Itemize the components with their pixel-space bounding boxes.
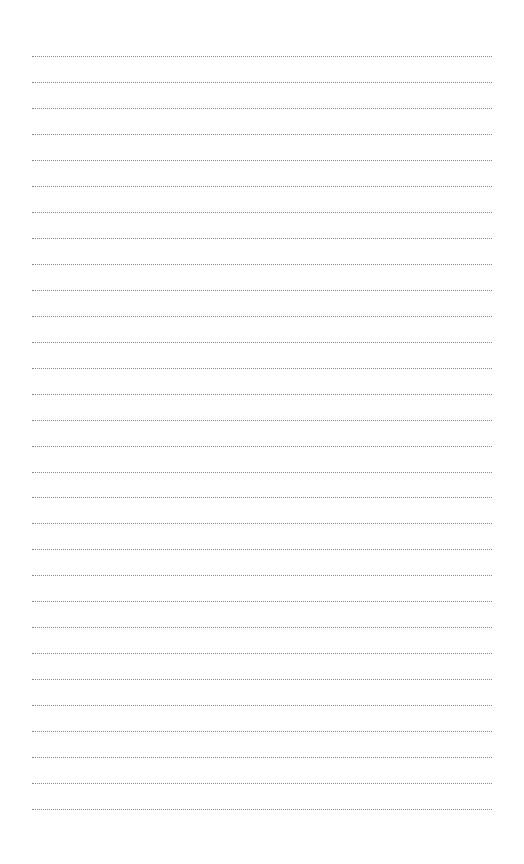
- lined-page: [0, 0, 524, 864]
- ruled-line: [32, 82, 492, 83]
- ruled-line: [32, 575, 492, 576]
- ruled-line: [32, 705, 492, 706]
- ruled-line: [32, 601, 492, 602]
- ruled-line: [32, 56, 492, 57]
- ruled-line: [32, 523, 492, 524]
- ruled-line: [32, 627, 492, 628]
- ruled-line: [32, 368, 492, 369]
- ruled-line: [32, 679, 492, 680]
- ruled-line: [32, 186, 492, 187]
- ruled-line: [32, 446, 492, 447]
- ruled-line: [32, 472, 492, 473]
- ruled-line: [32, 108, 492, 109]
- ruled-line: [32, 394, 492, 395]
- ruled-line: [32, 342, 492, 343]
- ruled-line: [32, 264, 492, 265]
- ruled-line: [32, 549, 492, 550]
- ruled-line: [32, 290, 492, 291]
- ruled-line: [32, 160, 492, 161]
- ruled-line: [32, 731, 492, 732]
- ruled-line: [32, 316, 492, 317]
- ruled-line: [32, 497, 492, 498]
- ruled-line: [32, 653, 492, 654]
- ruled-line: [32, 783, 492, 784]
- ruled-line: [32, 212, 492, 213]
- ruled-line: [32, 809, 492, 810]
- ruled-line: [32, 134, 492, 135]
- ruled-line: [32, 238, 492, 239]
- ruled-line: [32, 757, 492, 758]
- ruled-line: [32, 420, 492, 421]
